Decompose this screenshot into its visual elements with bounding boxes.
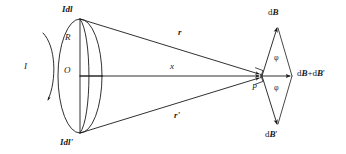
diagram-vector-graphics: [0, 0, 346, 154]
label-angle-lower: φ: [274, 84, 279, 92]
label-vector-r-prime: r': [174, 111, 180, 120]
label-field-top: dB: [268, 8, 279, 17]
label-radius: R: [65, 33, 71, 42]
physics-diagram-canvas: Idl Idl' R O I x r r' dB dB' dB+dB' φ φ …: [0, 0, 346, 154]
label-field-point: P: [252, 84, 257, 92]
label-current-element-top: Idl: [62, 5, 73, 14]
label-current: I: [24, 62, 27, 71]
label-current-element-top-text: Idl: [62, 4, 73, 14]
current-direction-arrow: [43, 33, 54, 100]
parallelogram-side-lower: [278, 76, 292, 124]
label-current-element-bottom: Idl': [60, 138, 73, 147]
label-angle-upper: φ: [274, 54, 279, 62]
label-current-element-bottom-text: Idl': [60, 137, 73, 147]
label-field-bottom: dB': [265, 130, 277, 139]
label-vector-r: r: [178, 28, 182, 37]
label-axial-distance: x: [170, 62, 174, 71]
label-field-resultant: dB+dB': [297, 69, 325, 78]
vector-r-prime-line: [80, 78, 259, 133]
vector-dB-line: [262, 28, 277, 76]
label-center: O: [64, 66, 71, 75]
parallelogram-side-upper: [278, 28, 292, 76]
